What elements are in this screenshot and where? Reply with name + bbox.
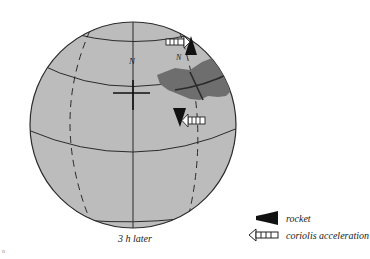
- legend-label: coriolis acceleration: [286, 230, 369, 241]
- legend-label: rocket: [286, 213, 311, 224]
- globe-diagram: N N: [0, 0, 260, 259]
- north-pole-label: N: [128, 56, 136, 66]
- legend-item-coriolis: coriolis acceleration: [248, 228, 369, 242]
- rocket-icon: [254, 211, 280, 225]
- launch-site-label: N: [175, 53, 182, 62]
- stray-mark: n: [2, 248, 5, 254]
- coriolis-arrow-icon: [248, 228, 280, 242]
- legend-item-rocket: rocket: [254, 211, 311, 225]
- diagram-caption: 3 h later: [105, 233, 165, 244]
